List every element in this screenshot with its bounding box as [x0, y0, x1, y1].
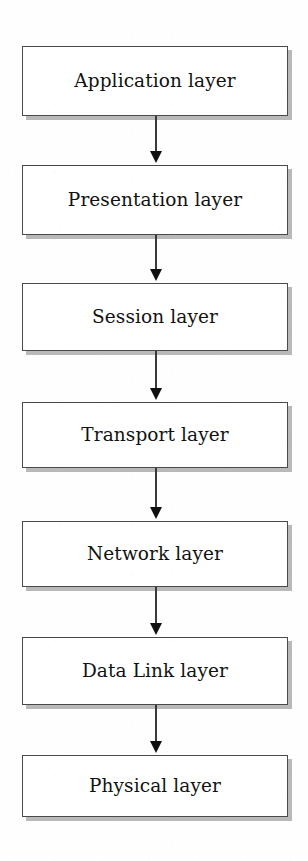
arrow-down-icon [150, 507, 162, 519]
arrow-down-icon [150, 269, 162, 281]
arrow-line-icon [155, 705, 157, 742]
layer-label: Physical layer [89, 777, 221, 796]
layer-box-7[interactable]: Physical layer [22, 755, 288, 817]
arrow-down-icon [150, 388, 162, 400]
layer-box-3[interactable]: Session layer [22, 283, 288, 351]
arrow-down-icon [150, 741, 162, 753]
layer-box-4[interactable]: Transport layer [22, 402, 288, 468]
arrow-line-icon [155, 351, 157, 389]
arrow-down-icon [150, 151, 162, 163]
arrow-line-icon [155, 116, 157, 152]
layer-box-2[interactable]: Presentation layer [22, 165, 288, 235]
arrow-connector-5 [150, 587, 162, 635]
arrow-down-icon [150, 623, 162, 635]
arrow-line-icon [155, 235, 157, 270]
layer-label: Session layer [92, 308, 218, 327]
layer-stack: Application layerPresentation layerSessi… [0, 0, 308, 861]
arrow-connector-4 [150, 468, 162, 519]
layer-label: Presentation layer [68, 191, 242, 210]
layer-label: Network layer [87, 545, 223, 564]
layer-box-1[interactable]: Application layer [22, 46, 288, 116]
layer-label: Transport layer [81, 426, 228, 445]
layer-label: Application layer [74, 72, 235, 91]
layer-box-6[interactable]: Data Link layer [22, 637, 288, 705]
layer-box-5[interactable]: Network layer [22, 521, 288, 587]
arrow-line-icon [155, 587, 157, 624]
osi-layer-diagram: Application layerPresentation layerSessi… [0, 0, 308, 861]
arrow-connector-1 [150, 116, 162, 163]
arrow-connector-3 [150, 351, 162, 400]
arrow-line-icon [155, 468, 157, 508]
layer-label: Data Link layer [82, 662, 228, 681]
arrow-connector-6 [150, 705, 162, 753]
arrow-connector-2 [150, 235, 162, 281]
